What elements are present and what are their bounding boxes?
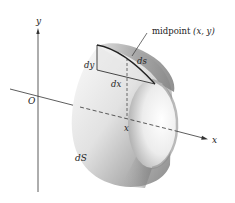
dx-label: dx xyxy=(111,79,121,89)
ds-label: ds xyxy=(137,56,147,66)
midpoint-label: midpoint (x, y) xyxy=(152,26,215,36)
x-axis-label: x xyxy=(212,135,217,145)
y-axis-arrow-icon xyxy=(36,28,39,34)
x-tick-label: x xyxy=(124,123,129,133)
midpoint-label-text: midpoint xyxy=(152,26,193,36)
origin-label: O xyxy=(28,96,36,106)
y-axis xyxy=(36,28,39,192)
surface-element-label: dS xyxy=(75,153,87,163)
dy-label: dy xyxy=(84,60,94,70)
x-axis-left-segment xyxy=(10,89,80,107)
y-axis-label: y xyxy=(35,16,42,26)
surface-area-diagram: y x O midpoint (x, y) dy dx ds x dS xyxy=(0,0,235,203)
x-axis-arrow-icon xyxy=(201,136,208,140)
midpoint-coords: (x, y) xyxy=(193,26,215,36)
inner-rim xyxy=(128,80,177,168)
